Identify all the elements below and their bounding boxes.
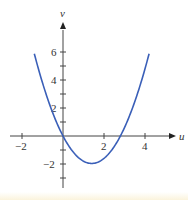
v-axis-arrow-icon bbox=[60, 22, 66, 29]
v-tick-label-6: 6 bbox=[51, 46, 57, 58]
bottom-band bbox=[0, 192, 188, 200]
parabola-curve bbox=[34, 54, 149, 164]
u-axis-arrow-icon bbox=[169, 133, 176, 139]
u-tick-label-neg2: −2 bbox=[15, 140, 27, 152]
u-tick-label-2: 2 bbox=[101, 140, 107, 152]
u-tick-label-4: 4 bbox=[142, 140, 148, 152]
v-tick-label-4: 4 bbox=[51, 74, 57, 86]
chart: −2 2 4 6 4 2 −2 u v bbox=[0, 0, 188, 200]
v-tick-label-neg2: −2 bbox=[43, 158, 55, 170]
v-axis-label: v bbox=[60, 7, 65, 19]
u-axis-label: u bbox=[179, 130, 185, 142]
